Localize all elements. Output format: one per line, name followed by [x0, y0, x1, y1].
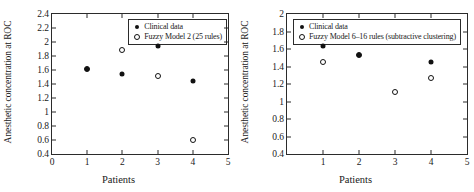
y-tick-mark [463, 49, 467, 50]
x-tick-mark [323, 150, 324, 154]
y-tick-label: 1.4 [37, 79, 49, 89]
y-tick-mark [52, 84, 56, 85]
y-tick-mark [224, 42, 228, 43]
data-point-hollow-circle [119, 47, 125, 53]
y-tick-label: 1.6 [37, 65, 49, 75]
y-tick-mark [224, 56, 228, 57]
x-tick-label: 3 [393, 157, 398, 167]
y-tick-mark [287, 101, 291, 102]
y-tick-mark [224, 98, 228, 99]
x-axis-title-right: Patients [237, 174, 474, 185]
x-tick-mark [157, 14, 158, 18]
y-tick-mark [463, 84, 467, 85]
x-tick-mark [431, 150, 432, 154]
y-tick-mark [224, 28, 228, 29]
data-point-hollow-circle [356, 52, 362, 58]
y-tick-label: 0.6 [272, 132, 284, 142]
legend-right: Clinical data Fuzzy Model 6–16 rules (su… [293, 19, 461, 45]
x-tick-mark [157, 150, 158, 154]
x-tick-mark [192, 14, 193, 18]
y-axis-title-right: Anesthetic concentration at ROC [240, 0, 254, 178]
y-tick-mark [52, 126, 56, 127]
x-tick-label: 3 [155, 157, 160, 167]
legend-label: Fuzzy Model 6–16 rules (subtractive clus… [309, 32, 456, 42]
x-tick-mark [192, 150, 193, 154]
plot-area-left: Clinical data Fuzzy Model 2 (25 rules) 0… [51, 13, 229, 155]
y-tick-label: 2 [279, 9, 284, 19]
x-tick-label: 5 [226, 157, 231, 167]
legend-label: Clinical data [144, 22, 183, 32]
legend-item-fuzzy-model: Fuzzy Model 2 (25 rules) [132, 32, 222, 42]
y-tick-label: 0.4 [37, 149, 49, 159]
legend-left: Clinical data Fuzzy Model 2 (25 rules) [128, 19, 227, 45]
x-tick-mark [431, 14, 432, 18]
legend-label: Clinical data [309, 22, 348, 32]
y-tick-mark [463, 66, 467, 67]
y-tick-label: 1 [44, 107, 49, 117]
x-tick-mark [122, 150, 123, 154]
data-point-hollow-circle [155, 73, 161, 79]
x-tick-label: 4 [429, 157, 434, 167]
x-tick-mark [395, 14, 396, 18]
filled-circle-icon [132, 23, 141, 32]
x-tick-mark [323, 14, 324, 18]
y-tick-mark [287, 84, 291, 85]
y-tick-label: 1.2 [272, 79, 284, 89]
y-tick-mark [52, 140, 56, 141]
y-tick-label: 1.4 [272, 62, 284, 72]
y-tick-mark [52, 70, 56, 71]
data-point-hollow-circle [190, 137, 196, 143]
hollow-circle-icon [297, 33, 306, 42]
data-point-filled-circle [321, 44, 326, 49]
y-tick-label: 1 [279, 97, 284, 107]
y-tick-mark [287, 136, 291, 137]
y-tick-mark [287, 49, 291, 50]
y-tick-label: 1.8 [37, 51, 49, 61]
y-tick-mark [224, 112, 228, 113]
x-tick-label: 1 [321, 157, 326, 167]
y-tick-label: 0.6 [37, 135, 49, 145]
y-tick-label: 2.4 [37, 9, 49, 19]
y-tick-mark [52, 98, 56, 99]
y-tick-label: 1.2 [37, 93, 49, 103]
data-point-filled-circle [190, 78, 195, 83]
chart-panel-right: Anesthetic concentration at ROC Clinical… [237, 0, 474, 192]
data-point-filled-circle [155, 44, 160, 49]
filled-circle-icon [297, 23, 306, 32]
x-tick-mark [122, 14, 123, 18]
data-point-filled-circle [120, 72, 125, 77]
y-tick-mark [463, 136, 467, 137]
legend-item-clinical-data: Clinical data [297, 22, 456, 32]
y-tick-mark [287, 66, 291, 67]
x-tick-label: 2 [120, 157, 125, 167]
y-axis-title-left: Anesthetic concentration at ROC [3, 0, 17, 178]
y-tick-label: 1.6 [272, 44, 284, 54]
y-tick-mark [52, 28, 56, 29]
x-tick-mark [395, 150, 396, 154]
x-tick-label: 5 [465, 157, 470, 167]
hollow-circle-icon [132, 33, 141, 42]
figure-two-panel-scatter: Anesthetic concentration at ROC Clinical… [0, 0, 474, 192]
y-tick-label: 0.8 [272, 114, 284, 124]
x-tick-mark [87, 150, 88, 154]
y-tick-label: 1.8 [272, 27, 284, 37]
y-tick-label: 0.4 [272, 149, 284, 159]
x-tick-mark [87, 14, 88, 18]
chart-panel-left: Anesthetic concentration at ROC Clinical… [0, 0, 237, 192]
legend-item-fuzzy-model: Fuzzy Model 6–16 rules (subtractive clus… [297, 32, 456, 42]
x-tick-label: 1 [85, 157, 90, 167]
legend-label: Fuzzy Model 2 (25 rules) [144, 32, 222, 42]
data-point-hollow-circle [320, 59, 326, 65]
y-tick-mark [224, 126, 228, 127]
x-tick-label: 0 [50, 157, 55, 167]
data-point-hollow-circle [84, 66, 90, 72]
legend-item-clinical-data: Clinical data [132, 22, 222, 32]
y-tick-mark [463, 101, 467, 102]
data-point-hollow-circle [428, 75, 434, 81]
plot-area-right: Clinical data Fuzzy Model 6–16 rules (su… [286, 13, 468, 155]
y-tick-mark [224, 70, 228, 71]
y-tick-mark [52, 42, 56, 43]
y-tick-mark [52, 112, 56, 113]
y-tick-label: 0.8 [37, 121, 49, 131]
y-tick-mark [463, 31, 467, 32]
